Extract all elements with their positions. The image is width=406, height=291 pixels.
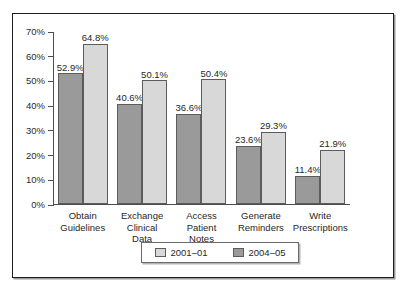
x-axis-category-label: ExchangeClinicalData [112,210,171,245]
bar[interactable]: 40.6% [117,104,142,204]
bar-value-label: 64.8% [82,33,109,43]
plot-area: 0%10%20%30%40%50%60%70% 52.9%64.8%Obtain… [53,32,350,205]
legend-entry[interactable]: 2001–01 [155,248,208,258]
y-axis-tick [48,205,54,206]
bar[interactable]: 50.4% [201,79,226,204]
bar[interactable]: 64.8% [83,44,108,204]
y-axis-tick-label: 20% [26,151,45,161]
bar-group: 40.6%50.1%ExchangeClinicalData [112,31,171,204]
chart-figure: 0%10%20%30%40%50%60%70% 52.9%64.8%Obtain… [12,13,394,278]
y-axis-tick-label: 70% [26,27,45,37]
legend-swatch-icon [155,248,166,257]
bar[interactable]: 50.1% [142,80,167,204]
y-axis-tick-label: 60% [26,52,45,62]
bar-value-label: 50.1% [141,70,168,80]
bar-value-label: 40.6% [116,93,143,103]
y-axis-tick-label: 30% [26,126,45,136]
bar-value-label: 52.9% [57,63,84,73]
bar[interactable]: 29.3% [261,132,286,204]
bar-value-label: 29.3% [260,121,287,131]
bar-value-label: 23.6% [235,135,262,145]
bar-group: 36.6%50.4%AccessPatientNotes [172,31,231,204]
legend-swatch-icon [233,248,244,257]
bar-group: 52.9%64.8%ObtainGuidelines [53,31,112,204]
chart-legend: 2001–012004–05 [141,242,299,263]
bar-group: 23.6%29.3%GenerateReminders [231,31,290,204]
bar-value-label: 36.6% [176,103,203,113]
bar[interactable]: 36.6% [176,114,201,204]
bar[interactable]: 52.9% [58,73,83,204]
bar[interactable]: 23.6% [236,146,261,204]
x-axis-category-label: WritePrescriptions [291,210,350,233]
bar-value-label: 21.9% [319,139,346,149]
y-axis-tick-label: 40% [26,101,45,111]
y-axis-tick-label: 0% [31,200,45,210]
y-axis-tick-label: 50% [26,77,45,87]
legend-entry[interactable]: 2004–05 [233,248,286,258]
y-axis-tick-label: 10% [26,176,45,186]
bar-group: 11.4%21.9%WritePrescriptions [291,31,350,204]
bar[interactable]: 11.4% [295,176,320,204]
bar[interactable]: 21.9% [320,150,345,204]
x-axis-category-label: GenerateReminders [231,210,290,233]
legend-label: 2001–01 [171,248,208,258]
legend-label: 2004–05 [249,248,286,258]
bar-value-label: 50.4% [201,69,228,79]
x-axis-category-label: ObtainGuidelines [53,210,112,233]
bar-value-label: 11.4% [295,165,321,175]
x-axis-category-label: AccessPatientNotes [172,210,231,245]
x-axis-line [53,204,350,205]
